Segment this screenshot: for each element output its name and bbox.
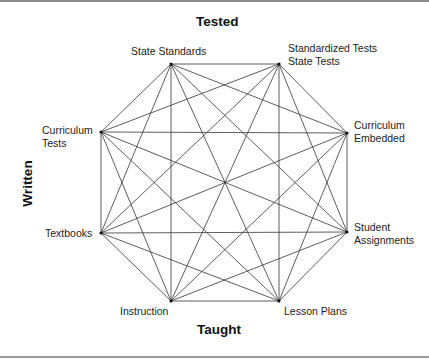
vertex-curriculum-embedded (345, 131, 348, 134)
node-label-curriculum-tests: Curriculum Tests (42, 124, 93, 150)
node-label-textbooks: Textbooks (45, 227, 92, 240)
edge-standardized-tests-textbooks (101, 64, 279, 233)
node-label-curriculum-embedded: Curriculum Embedded (354, 119, 405, 145)
vertex-state-standards (169, 62, 172, 65)
node-label-line: Tests (42, 137, 93, 150)
graph-edges (101, 64, 347, 301)
edge-instruction-textbooks (101, 233, 171, 301)
edge-student-assignments-curriculum-tests (101, 132, 347, 232)
node-label-instruction: Instruction (120, 305, 168, 318)
edge-standardized-tests-student-assignments (279, 64, 347, 232)
vertex-curriculum-tests (99, 130, 102, 133)
node-label-line: Embedded (354, 132, 405, 145)
vertex-student-assignments (345, 230, 348, 233)
edge-state-standards-curriculum-tests (101, 64, 171, 132)
edge-student-assignments-textbooks (101, 232, 347, 233)
node-label-line: Assignments (354, 234, 414, 247)
axis-label-tested: Tested (196, 14, 239, 29)
edge-state-standards-textbooks (101, 64, 171, 233)
node-label-line: State Tests (288, 55, 377, 68)
vertex-textbooks (99, 231, 102, 234)
bottom-rule (0, 356, 429, 358)
edge-instruction-curriculum-tests (101, 132, 171, 301)
axis-label-written: Written (20, 159, 35, 209)
graph-vertices (99, 62, 348, 302)
edge-lesson-plans-curriculum-tests (101, 132, 279, 301)
edge-curriculum-embedded-instruction (171, 133, 347, 301)
node-label-line: Curriculum (42, 124, 93, 137)
vertex-lesson-plans (277, 299, 280, 302)
node-label-lesson-plans: Lesson Plans (284, 305, 347, 318)
node-label-line: Curriculum (354, 119, 405, 132)
vertex-instruction (169, 299, 172, 302)
edge-standardized-tests-curriculum-embedded (279, 64, 347, 133)
edge-curriculum-embedded-curriculum-tests (101, 132, 347, 133)
edge-curriculum-embedded-textbooks (101, 133, 347, 233)
edge-curriculum-embedded-lesson-plans (279, 133, 347, 301)
edge-state-standards-student-assignments (171, 64, 347, 232)
node-label-student-assignments: Student Assignments (354, 221, 414, 247)
edge-student-assignments-lesson-plans (279, 232, 347, 301)
node-label-line: Standardized Tests (288, 42, 377, 55)
axis-label-taught: Taught (197, 322, 241, 337)
node-label-state-standards: State Standards (131, 45, 206, 58)
node-label-standardized-tests: Standardized Tests State Tests (288, 42, 377, 68)
vertex-standardized-tests (277, 62, 280, 65)
node-label-line: Student (354, 221, 414, 234)
